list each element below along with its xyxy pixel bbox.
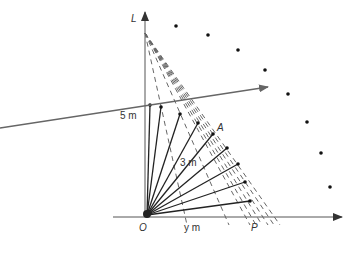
arc-dots [174, 24, 332, 189]
ladder-end-dot [178, 112, 182, 116]
ladder-end-dot [225, 146, 229, 150]
label-ym: y m [184, 222, 200, 233]
label-3m: 3 m [180, 157, 197, 168]
ladder-end-dot [236, 162, 240, 166]
arc-dot [319, 151, 323, 155]
ladder-diagram: L 5 m 3 m A O y m P [0, 0, 360, 262]
solid-lines [147, 103, 252, 215]
dashed-line [145, 33, 274, 225]
arc-dot [206, 33, 210, 37]
arc-dot [236, 48, 240, 52]
dashed-lines [145, 33, 280, 225]
ladder-end-dot [196, 121, 200, 125]
ladder-end-dot [243, 180, 247, 184]
label-p: P [251, 222, 258, 233]
label-o: O [139, 222, 147, 233]
ladder-line [147, 201, 250, 215]
arc-dot [305, 120, 309, 124]
arc-dot [263, 68, 267, 72]
arc-dot [174, 24, 178, 28]
arc-dot [328, 185, 332, 189]
ladder-line [147, 134, 213, 215]
origin-hub [143, 210, 151, 218]
dashed-line [145, 33, 268, 225]
label-a: A [216, 122, 224, 133]
dashed-line [145, 33, 280, 225]
ladder-end-dot [159, 105, 163, 109]
label-5m: 5 m [120, 110, 137, 121]
ladder-end-dot [211, 132, 215, 136]
ladder-end-dot [248, 199, 252, 203]
arc-dot [286, 92, 290, 96]
sweep-arrow [0, 87, 268, 128]
dashed-line [145, 33, 250, 225]
label-l: L [131, 13, 137, 24]
